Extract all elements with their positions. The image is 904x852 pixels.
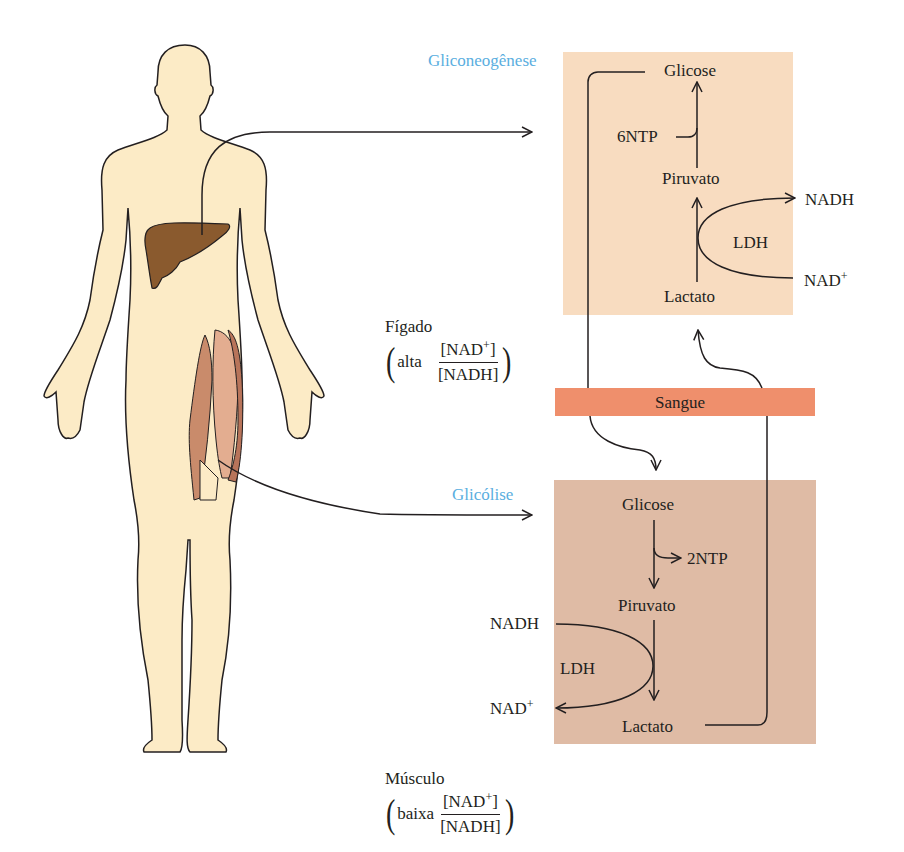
ratio-fraction: [NAD+] [NADH] <box>440 790 500 837</box>
human-body-figure <box>44 45 324 752</box>
numerator-close: ] <box>492 792 498 811</box>
muscle-pyruvate-label: Piruvato <box>618 597 676 614</box>
liver-nad-label: NAD+ <box>804 270 848 289</box>
open-paren: ( <box>386 794 395 834</box>
liver-organ-label: Fígado <box>385 318 432 335</box>
close-paren: ) <box>505 794 514 834</box>
diagram-canvas <box>0 0 904 852</box>
glycolysis-title: Glicólise <box>452 486 513 503</box>
blood-label: Sangue <box>655 394 705 411</box>
nad-text: NAD <box>804 271 841 290</box>
liver-ntp-label: 6NTP <box>617 128 658 145</box>
liver-pyruvate-label: Piruvato <box>662 170 720 187</box>
gluconeogenesis-title: Gliconeogênese <box>428 52 537 69</box>
muscle-lactate-label: Lactato <box>622 718 673 735</box>
nad-charge: + <box>841 269 848 283</box>
muscle-panel-box <box>554 480 816 744</box>
liver-nadh-label: NADH <box>805 191 854 208</box>
glucose-to-muscle-arrow <box>590 416 656 470</box>
muscle-ratio-qualifier: baixa <box>397 804 434 824</box>
liver-ratio-qualifier: alta <box>397 352 422 372</box>
ratio-fraction: [NAD+] [NADH] <box>438 338 498 385</box>
muscle-ntp-label: 2NTP <box>687 550 728 567</box>
ratio-numerator: [NAD+] <box>439 338 498 363</box>
liver-nad-ratio: ( alta [NAD+] [NADH] ) <box>384 338 514 385</box>
body-outline <box>44 45 324 752</box>
numerator-text: [NAD <box>441 340 484 359</box>
liver-ldh-label: LDH <box>733 234 768 251</box>
muscle-glucose-label: Glicose <box>622 496 674 513</box>
close-paren: ) <box>502 342 511 382</box>
numerator-charge: + <box>483 338 490 352</box>
muscle-nad-label: NAD+ <box>490 698 534 717</box>
open-paren: ( <box>386 342 395 382</box>
numerator-close: ] <box>490 340 496 359</box>
liver-glucose-label: Glicose <box>664 62 716 79</box>
muscle-nadh-label: NADH <box>490 615 539 632</box>
lactate-to-liver-arrow <box>698 330 762 388</box>
ratio-denominator: [NADH] <box>440 815 500 837</box>
nad-text: NAD <box>490 699 527 718</box>
numerator-text: [NAD <box>443 792 486 811</box>
muscle-nad-ratio: ( baixa [NAD+] [NADH] ) <box>384 790 516 837</box>
muscle-organ-label: Músculo <box>385 770 445 787</box>
nad-charge: + <box>527 697 534 711</box>
ratio-denominator: [NADH] <box>438 363 498 385</box>
muscle-ldh-label: LDH <box>560 660 595 677</box>
liver-lactate-label: Lactato <box>664 288 715 305</box>
ratio-numerator: [NAD+] <box>441 790 500 815</box>
